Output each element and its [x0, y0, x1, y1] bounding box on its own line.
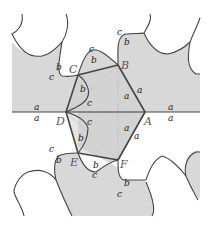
label-a: a — [34, 102, 39, 112]
label-c: c — [49, 144, 54, 154]
tiling-diagram: C B D A E F a a a a a a a a b c b c b c … — [0, 0, 209, 226]
label-b: b — [78, 133, 84, 143]
label-a: a — [168, 113, 173, 123]
label-a: a — [124, 123, 129, 133]
bottom-margin — [0, 216, 209, 226]
vertex-label-C: C — [69, 63, 78, 76]
label-a: a — [124, 91, 129, 101]
label-a: a — [168, 102, 173, 112]
label-b: b — [80, 84, 86, 94]
vertex-label-A: A — [143, 115, 152, 128]
right-margin — [200, 0, 209, 226]
label-a: a — [34, 113, 39, 123]
label-c: c — [87, 117, 92, 127]
vertex-label-F: F — [119, 158, 128, 171]
label-a: a — [137, 85, 142, 95]
label-b: b — [91, 55, 97, 65]
label-b: b — [93, 160, 99, 170]
vertex-label-E: E — [69, 156, 78, 169]
left-margin — [0, 0, 12, 226]
label-b: b — [56, 62, 62, 72]
label-c: c — [117, 27, 122, 37]
label-c: c — [92, 170, 97, 180]
label-c: c — [87, 98, 92, 108]
vertex-label-B: B — [120, 59, 129, 72]
label-c: c — [117, 189, 122, 199]
label-b: b — [124, 178, 130, 188]
label-c: c — [89, 44, 94, 54]
label-a: a — [134, 131, 139, 141]
label-b: b — [56, 155, 62, 165]
label-b: b — [124, 37, 130, 47]
label-c: c — [49, 72, 54, 82]
vertex-label-D: D — [55, 115, 65, 128]
